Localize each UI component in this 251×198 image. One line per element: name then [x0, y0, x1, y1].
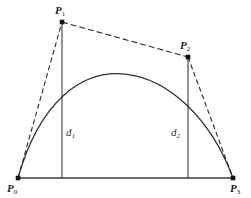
- point-label-p2: P2: [180, 40, 190, 53]
- distance-label-d2-sub: 2: [177, 132, 181, 140]
- point-label-p3-base: P: [230, 182, 237, 194]
- control-point-marker-p0: [16, 176, 21, 181]
- point-label-p3-sub: 3: [237, 188, 241, 196]
- control-polygon-segment-p1-p2: [62, 22, 188, 57]
- control-polygon-segment-p0-p1: [18, 22, 62, 178]
- point-label-p3: P3: [230, 183, 240, 196]
- point-label-p0-base: P: [7, 182, 14, 194]
- control-point-marker-p3: [231, 176, 236, 181]
- point-label-p2-base: P: [180, 39, 187, 51]
- control-point-marker-p2: [186, 55, 191, 60]
- control-polygon-segment-p2-p3: [188, 57, 233, 178]
- distance-label-d1: d1: [66, 127, 75, 140]
- control-point-marker-p1: [60, 20, 65, 25]
- point-label-p1: P1: [55, 5, 65, 18]
- bezier-curve-path: [18, 74, 233, 178]
- point-label-p0: P0: [7, 183, 17, 196]
- point-label-p1-sub: 1: [62, 10, 66, 18]
- figure-canvas: [0, 0, 251, 198]
- distance-label-d2: d2: [171, 127, 180, 140]
- distance-label-d1-sub: 1: [72, 132, 76, 140]
- point-label-p1-base: P: [55, 4, 62, 16]
- point-label-p0-sub: 0: [14, 188, 18, 196]
- point-label-p2-sub: 2: [187, 45, 191, 53]
- bezier-flatness-figure: P0 P1 P2 P3 d1 d2: [0, 0, 251, 198]
